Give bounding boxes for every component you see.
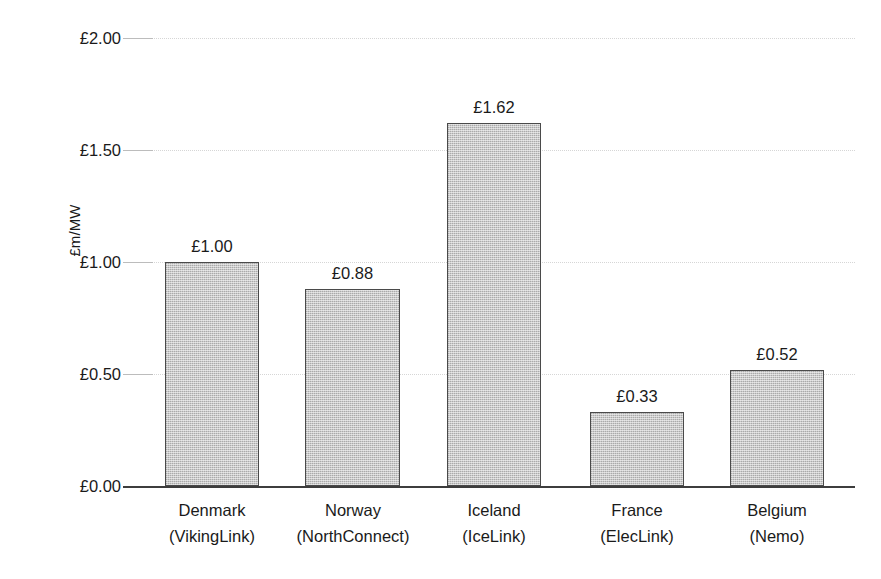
gridline-stub-0-50: [123, 374, 153, 375]
y-tick-label-3: £1.50: [3, 141, 121, 160]
bar-norway[interactable]: [305, 289, 400, 486]
bar-france[interactable]: [590, 412, 684, 486]
gridline-stub-1-50: [123, 150, 153, 151]
bar-belgium[interactable]: [730, 370, 824, 486]
plot-area: £1.00 £0.88 £1.62 £0.33 £0.52: [123, 38, 855, 486]
y-tick-label-4: £2.00: [3, 29, 121, 48]
bar-value-belgium: £0.52: [730, 345, 824, 364]
bar-denmark[interactable]: [165, 262, 259, 486]
x-axis-label-belgium-line1: Belgium: [747, 501, 807, 519]
y-tick-label-2: £1.00: [3, 253, 121, 272]
y-tick-label-1: £0.50: [3, 365, 121, 384]
gridline-stub-2-00: [123, 38, 153, 39]
x-axis-label-iceland-line1: Iceland: [467, 501, 520, 519]
x-axis-label-belgium-line2: (Nemo): [684, 523, 870, 549]
x-axis-line: [123, 486, 855, 488]
x-axis-label-denmark-line1: Denmark: [179, 501, 246, 519]
bar-value-norway: £0.88: [305, 264, 400, 283]
x-axis-label-norway-line1: Norway: [325, 501, 381, 519]
y-tick-label-0: £0.00: [3, 477, 121, 496]
x-axis-label-belgium: Belgium (Nemo): [684, 497, 870, 549]
x-axis-label-france-line1: France: [611, 501, 662, 519]
bar-value-denmark: £1.00: [165, 237, 259, 256]
bar-value-france: £0.33: [590, 387, 684, 406]
bar-chart: £m/MW £0.00 £0.50 £1.00 £1.50 £2.00 £1.0…: [0, 0, 881, 579]
bar-iceland[interactable]: [447, 123, 541, 486]
y-axis-tick-labels: £0.00 £0.50 £1.00 £1.50 £2.00: [0, 0, 121, 579]
gridline-stub-1-00: [123, 262, 153, 263]
bar-value-iceland: £1.62: [447, 98, 541, 117]
gridline-2-00: [123, 38, 855, 40]
